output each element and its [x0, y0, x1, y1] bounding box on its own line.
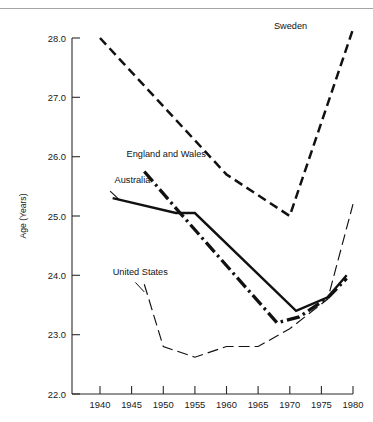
x-tick-label-1980: 1980: [343, 399, 364, 410]
x-tick-label-1955: 1955: [184, 399, 205, 410]
series-label-united-states: United States: [113, 267, 169, 277]
leader-united-states: [135, 282, 144, 292]
y-axis-ticks: [72, 38, 80, 394]
x-axis: 1940 1945 1950 1955 1960 1965 1970 1975 …: [72, 386, 363, 410]
series-line-sweden: [100, 29, 353, 216]
x-tick-label-1975: 1975: [311, 399, 332, 410]
y-axis-tick-labels: 28.0 27.0 26.0 25.0 24.0 23.0 22.0: [48, 33, 66, 400]
y-tick-label-28: 28.0: [48, 33, 66, 44]
y-tick-label-24: 24.0: [48, 270, 66, 281]
y-tick-label-22: 22.0: [48, 389, 66, 400]
x-tick-label-1960: 1960: [216, 399, 237, 410]
series-line-united-states: [144, 204, 353, 357]
series-label-layer: Sweden England and Wales Australia Unite…: [113, 21, 307, 277]
line-chart-figure: 28.0 27.0 26.0 25.0 24.0 23.0 22.0 Age (…: [0, 0, 373, 422]
series-label-australia: Australia: [115, 175, 152, 185]
x-axis-tick-labels: 1940 1945 1950 1955 1960 1965 1970 1975 …: [90, 399, 364, 410]
y-axis-title: Age (Years): [18, 193, 28, 238]
x-tick-label-1950: 1950: [153, 399, 174, 410]
x-tick-label-1940: 1940: [90, 399, 111, 410]
x-tick-label-1965: 1965: [248, 399, 269, 410]
x-axis-ticks: [100, 386, 353, 394]
chart-canvas: 28.0 27.0 26.0 25.0 24.0 23.0 22.0 Age (…: [0, 0, 373, 422]
y-tick-label-27: 27.0: [48, 92, 66, 103]
x-tick-label-1970: 1970: [279, 399, 300, 410]
series-label-england-and-wales: England and Wales: [127, 149, 207, 159]
series-label-sweden: Sweden: [274, 21, 307, 31]
x-tick-label-1945: 1945: [121, 399, 142, 410]
y-tick-label-23: 23.0: [48, 329, 66, 340]
y-tick-label-26: 26.0: [48, 151, 66, 162]
y-tick-label-25: 25.0: [48, 211, 66, 222]
series-layer: [100, 29, 353, 357]
series-line-england-and-wales: [144, 172, 346, 323]
y-axis: 28.0 27.0 26.0 25.0 24.0 23.0 22.0 Age (…: [18, 33, 80, 400]
